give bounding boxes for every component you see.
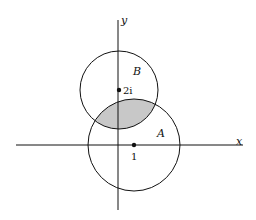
point-1-label: 1	[131, 151, 137, 162]
point-2i-label: 2i	[123, 85, 133, 96]
x-axis-label: x	[236, 135, 243, 148]
circle-b-label: B	[132, 65, 141, 78]
point-2i	[117, 88, 121, 92]
circle-a-label: A	[156, 127, 165, 140]
y-axis-label: y	[120, 14, 128, 27]
point-1	[132, 143, 136, 147]
complex-plane-diagram: y x B A 2i 1	[0, 0, 256, 220]
diagram-root: y x B A 2i 1	[0, 0, 256, 220]
